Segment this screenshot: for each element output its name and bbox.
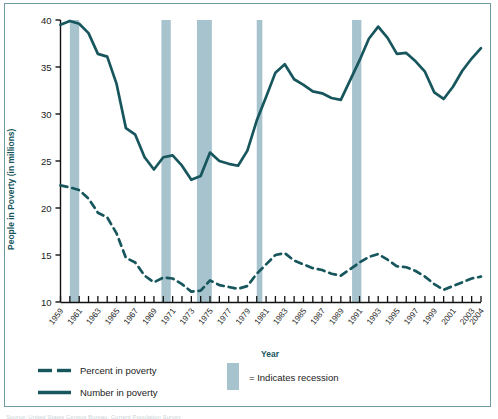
recession-band-4 <box>257 20 263 302</box>
y-tick-group <box>56 20 61 302</box>
x-tick-label-1975: 1975 <box>197 306 216 326</box>
chart-figure: 10152025303540 1959196119631965196719691… <box>0 0 498 419</box>
series-percent-in-poverty <box>61 185 482 291</box>
x-tick-label-1989: 1989 <box>328 306 347 326</box>
x-tick-label-1977: 1977 <box>215 306 234 326</box>
y-tick-label-15: 15 <box>41 250 52 261</box>
y-tick-label-20: 20 <box>41 203 52 214</box>
x-tick-label-1969: 1969 <box>141 306 160 326</box>
recession-swatch-icon <box>227 363 239 390</box>
legend-label-percent: Percent in poverty <box>80 365 157 376</box>
chart-legend: Percent in poverty Number in poverty = I… <box>38 363 339 398</box>
x-tick-label-1973: 1973 <box>178 306 197 326</box>
series-number-in-poverty <box>61 21 482 180</box>
y-tick-label-group: 10152025303540 <box>41 15 52 308</box>
recession-band-1 <box>70 20 79 302</box>
x-tick-label-1983: 1983 <box>271 306 290 326</box>
x-tick-label-1959: 1959 <box>47 306 66 326</box>
x-tick-label-1961: 1961 <box>66 306 85 326</box>
poverty-chart-svg: 10152025303540 1959196119631965196719691… <box>0 0 498 419</box>
legend-label-number: Number in poverty <box>80 387 158 398</box>
y-tick-label-30: 30 <box>41 109 52 120</box>
y-axis-title: People in Poverty (in millions) <box>6 128 16 250</box>
recession-bands-group <box>70 20 362 302</box>
legend-label-recession: = Indicates recession <box>249 372 339 383</box>
x-tick-label-1987: 1987 <box>309 306 328 326</box>
x-tick-label-1997: 1997 <box>402 306 421 326</box>
x-tick-label-1985: 1985 <box>290 306 309 326</box>
x-tick-label-1979: 1979 <box>234 306 253 326</box>
y-tick-label-10: 10 <box>41 297 52 308</box>
y-tick-label-25: 25 <box>41 156 52 167</box>
x-tick-label-1971: 1971 <box>159 306 178 326</box>
x-tick-label-1995: 1995 <box>384 306 403 326</box>
x-tick-label-1963: 1963 <box>85 306 104 326</box>
y-tick-label-35: 35 <box>41 62 52 73</box>
x-tick-label-group: 1959196119631965196719691971197319751977… <box>47 306 486 326</box>
legend-item-recession[interactable]: = Indicates recession <box>227 363 339 390</box>
x-tick-label-1993: 1993 <box>365 306 384 326</box>
y-tick-label-40: 40 <box>41 15 52 26</box>
x-tick-label-1967: 1967 <box>122 306 141 326</box>
x-tick-label-2001: 2001 <box>440 306 459 326</box>
x-tick-label-1981: 1981 <box>253 306 272 326</box>
recession-band-3 <box>197 20 212 302</box>
x-axis-title: Year <box>261 349 280 359</box>
x-tick-label-1999: 1999 <box>421 306 440 326</box>
legend-item-percent[interactable]: Percent in poverty <box>38 365 157 376</box>
x-tick-label-1991: 1991 <box>346 306 365 326</box>
x-tick-label-1965: 1965 <box>103 306 122 326</box>
recession-band-2 <box>161 20 170 302</box>
legend-item-number[interactable]: Number in poverty <box>38 387 158 398</box>
source-note: Source: United States Census Bureau, Cur… <box>6 414 476 419</box>
x-tick-group <box>61 296 482 302</box>
